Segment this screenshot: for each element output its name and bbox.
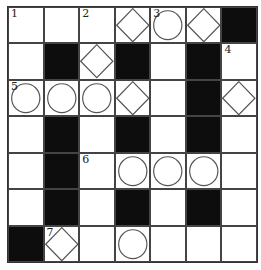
clue-number: 2 [82, 8, 89, 20]
grid-cell[interactable] [44, 7, 80, 43]
grid-cell[interactable]: 4 [221, 43, 257, 79]
grid-cell[interactable] [79, 116, 115, 152]
clue-number: 4 [224, 44, 231, 56]
circle-icon [116, 154, 150, 188]
black-cell [44, 43, 80, 79]
grid-cell[interactable] [150, 80, 186, 116]
grid-cell[interactable] [150, 189, 186, 225]
black-cell [221, 7, 257, 43]
grid-cell[interactable] [186, 226, 222, 262]
circle-icon [45, 81, 79, 115]
diamond-icon [222, 81, 256, 115]
grid-cell[interactable] [8, 189, 44, 225]
grid-cell[interactable] [44, 80, 80, 116]
grid-cell[interactable] [150, 116, 186, 152]
black-cell [186, 116, 222, 152]
clue-number: 7 [47, 227, 54, 239]
grid-cell[interactable] [79, 189, 115, 225]
circle-icon [151, 154, 185, 188]
black-cell [115, 189, 151, 225]
grid-cell[interactable] [221, 226, 257, 262]
grid-cell[interactable] [8, 153, 44, 189]
grid-cell[interactable] [79, 226, 115, 262]
grid-cell[interactable] [186, 153, 222, 189]
crossword-grid: 1234567 [7, 6, 258, 263]
grid-cell[interactable] [8, 43, 44, 79]
clue-number: 6 [82, 154, 89, 166]
circle-icon [116, 227, 150, 261]
black-cell [8, 226, 44, 262]
diamond-icon [80, 44, 114, 78]
grid-cell[interactable] [186, 7, 222, 43]
grid-cell[interactable] [115, 153, 151, 189]
diamond-icon [187, 8, 221, 42]
clue-number: 5 [11, 81, 18, 93]
grid-cell[interactable] [79, 80, 115, 116]
black-cell [186, 43, 222, 79]
grid-cell[interactable]: 1 [8, 7, 44, 43]
black-cell [44, 116, 80, 152]
black-cell [186, 189, 222, 225]
black-cell [44, 189, 80, 225]
black-cell [186, 80, 222, 116]
circle-icon [80, 81, 114, 115]
grid-cell[interactable] [150, 153, 186, 189]
grid-cell[interactable] [115, 80, 151, 116]
clue-number: 3 [153, 8, 160, 20]
diamond-icon [116, 81, 150, 115]
grid-cell[interactable] [115, 226, 151, 262]
grid-cell[interactable] [79, 43, 115, 79]
black-cell [44, 153, 80, 189]
grid-cell[interactable] [8, 116, 44, 152]
grid-cell[interactable]: 5 [8, 80, 44, 116]
black-cell [115, 116, 151, 152]
grid-cell[interactable] [150, 226, 186, 262]
grid-cell[interactable]: 2 [79, 7, 115, 43]
diamond-icon [116, 8, 150, 42]
grid-cell[interactable]: 7 [44, 226, 80, 262]
grid-cell[interactable] [221, 116, 257, 152]
grid-cell[interactable]: 6 [79, 153, 115, 189]
circle-icon [187, 154, 221, 188]
grid-cell[interactable] [150, 43, 186, 79]
black-cell [115, 43, 151, 79]
clue-number: 1 [11, 8, 18, 20]
grid-cell[interactable] [221, 189, 257, 225]
grid-cell[interactable] [221, 153, 257, 189]
grid-cell[interactable] [221, 80, 257, 116]
grid-cell[interactable] [115, 7, 151, 43]
grid-cell[interactable]: 3 [150, 7, 186, 43]
